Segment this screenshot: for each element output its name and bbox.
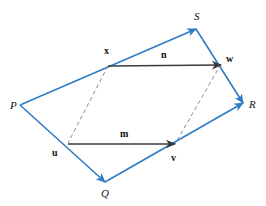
quadrilateral-edges bbox=[20, 29, 243, 182]
point-label-w: w bbox=[226, 54, 233, 64]
dashed-connectors bbox=[68, 64, 221, 144]
dashed-line-x-to-u bbox=[68, 66, 108, 143]
edge-q-to-r bbox=[105, 103, 243, 182]
point-label-x: x bbox=[104, 46, 109, 56]
point-label-u: u bbox=[52, 148, 58, 158]
vector-arrow-n bbox=[108, 65, 221, 66]
vector-arrows bbox=[68, 65, 221, 144]
vertex-label-p: P bbox=[10, 100, 17, 111]
vertex-label-q: Q bbox=[101, 188, 109, 199]
vertex-label-s: S bbox=[194, 11, 200, 22]
vector-label-n: n bbox=[161, 50, 167, 60]
vertex-label-r: R bbox=[249, 99, 256, 110]
dashed-line-w-to-v bbox=[175, 64, 221, 144]
point-label-v: v bbox=[171, 153, 176, 163]
diagram-canvas bbox=[0, 0, 266, 206]
vector-parallelogram-diagram: P Q R S u v x w m n bbox=[0, 0, 266, 206]
vector-label-m: m bbox=[120, 129, 128, 139]
